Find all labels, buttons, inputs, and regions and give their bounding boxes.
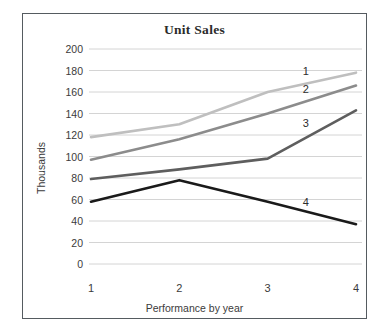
y-axis-tick-label: 180 <box>49 65 83 77</box>
series-lines <box>91 73 356 225</box>
x-axis-tick-label: 2 <box>164 282 194 294</box>
series-line <box>91 110 356 179</box>
x-axis-tick-label: 4 <box>341 282 371 294</box>
series-label: 2 <box>303 83 309 95</box>
series-label: 3 <box>303 117 309 129</box>
y-axis-tick-label: 20 <box>49 237 83 249</box>
chart-canvas <box>23 14 366 318</box>
plot-area <box>23 14 366 318</box>
y-axis-tick-label: 0 <box>49 258 83 270</box>
chart-frame: Unit Sales Thousands 2001801601401201008… <box>22 13 367 319</box>
x-axis-tick-label: 3 <box>253 282 283 294</box>
y-axis-tick-label: 80 <box>49 172 83 184</box>
series-line <box>91 180 356 224</box>
y-axis-tick-label: 160 <box>49 86 83 98</box>
series-label: 1 <box>303 65 309 77</box>
y-axis-tick-label: 60 <box>49 194 83 206</box>
y-axis-tick-label: 140 <box>49 108 83 120</box>
y-axis-tick-label: 100 <box>49 151 83 163</box>
series-line <box>91 86 356 160</box>
y-axis-tick-label: 200 <box>49 43 83 55</box>
y-axis-tick-label: 120 <box>49 129 83 141</box>
series-label: 4 <box>303 196 309 208</box>
x-axis-tick-label: 1 <box>76 282 106 294</box>
y-axis-tick-label: 40 <box>49 215 83 227</box>
x-axis-title: Performance by year <box>23 302 366 314</box>
